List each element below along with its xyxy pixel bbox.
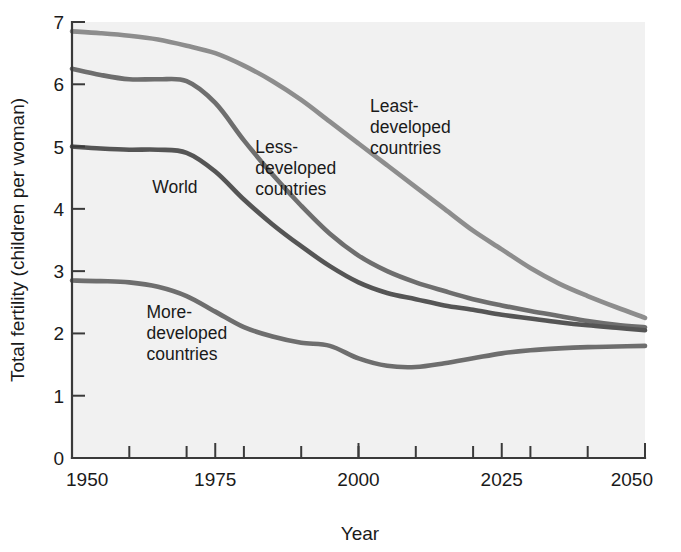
y-tick-label: 5 [53, 137, 64, 158]
annotation-line: countries [146, 344, 217, 364]
annotation-line: developed [370, 117, 451, 137]
annotation-line: countries [370, 138, 441, 158]
y-tick-label: 2 [53, 323, 64, 344]
x-tick-label: 1950 [66, 469, 108, 490]
x-tick-label: 1975 [194, 469, 236, 490]
y-tick-label: 4 [53, 199, 64, 220]
plot-area-background [72, 22, 645, 458]
y-tick-label: 1 [53, 386, 64, 407]
x-axis-title: Year [341, 523, 380, 544]
annotation-line: Least- [370, 96, 419, 116]
fertility-line-chart: 01234567 19501975200020252050 Least-deve… [0, 0, 681, 552]
annotation-line: Less- [255, 137, 298, 157]
annotation-world: World [152, 177, 197, 197]
y-tick-label: 0 [53, 448, 64, 469]
annotation-line: developed [255, 158, 336, 178]
y-axis-title: Total fertility (children per woman) [7, 98, 28, 382]
chart-figure: 01234567 19501975200020252050 Least-deve… [0, 0, 681, 552]
x-tick-label: 2000 [337, 469, 379, 490]
x-tick-label: 2050 [611, 469, 653, 490]
annotation-line: countries [255, 179, 326, 199]
annotation-line: World [152, 177, 197, 197]
annotation-line: developed [146, 323, 227, 343]
y-tick-label: 3 [53, 261, 64, 282]
y-tick-label: 7 [53, 12, 64, 33]
annotation-line: More- [146, 302, 192, 322]
y-tick-label: 6 [53, 74, 64, 95]
x-tick-label: 2025 [481, 469, 523, 490]
